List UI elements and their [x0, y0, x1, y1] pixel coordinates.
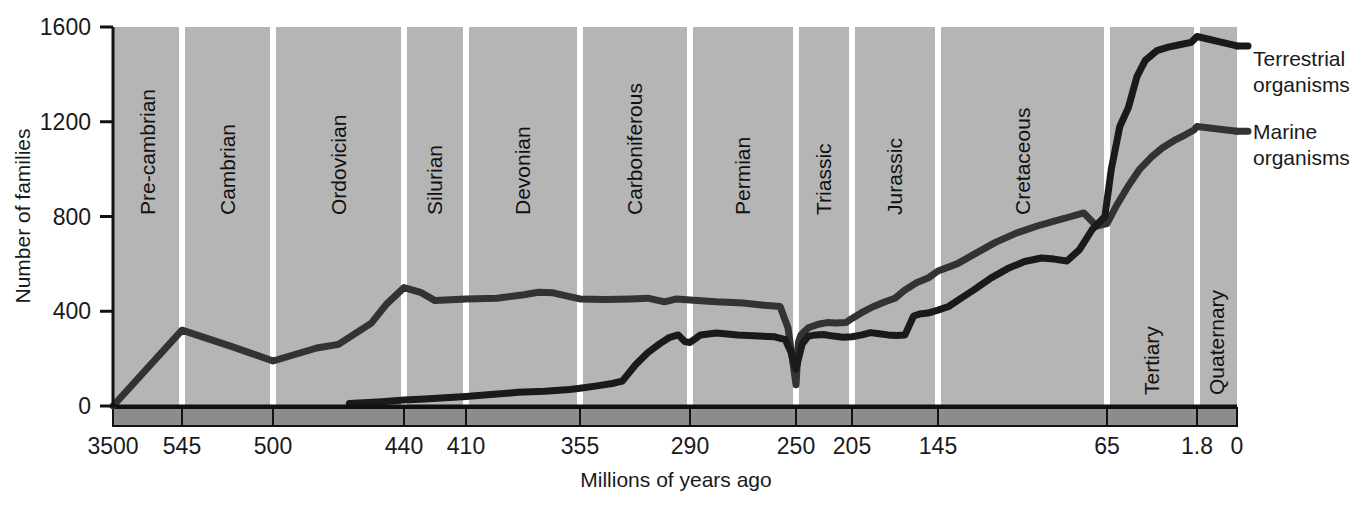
period-label: Quaternary: [1205, 289, 1228, 395]
diversity-line-chart: Pre-cambrianCambrianOrdovicianSilurianDe…: [0, 0, 1372, 510]
y-tick-label: 800: [53, 204, 91, 230]
period-band: [113, 408, 1237, 426]
period-label: Ordovician: [327, 115, 350, 215]
period-label: Jurassic: [883, 138, 906, 215]
y-tick-label: 0: [78, 393, 91, 419]
x-tick-label: 545: [163, 433, 201, 459]
period-label: Carboniferous: [623, 83, 646, 215]
x-tick-label: 65: [1094, 433, 1120, 459]
y-tick-label: 1200: [40, 109, 91, 135]
period-label: Silurian: [423, 145, 446, 215]
period-label: Permian: [731, 137, 754, 215]
period-band-strip: [113, 408, 1237, 426]
x-axis-title: Millions of years ago: [580, 468, 771, 491]
period-label: Triassic: [812, 143, 835, 215]
legend-marine-line1: Marine: [1253, 120, 1317, 143]
period-label: Cambrian: [216, 124, 239, 215]
x-tick-label: 290: [671, 433, 709, 459]
legend-marine-line2: organisms: [1253, 146, 1350, 169]
x-tick-label: 500: [254, 433, 292, 459]
x-tick-label: 145: [919, 433, 957, 459]
legend-terrestrial-line1: Terrestrial: [1253, 47, 1345, 70]
period-label: Cretaceous: [1011, 108, 1034, 215]
y-tick-label: 400: [53, 298, 91, 324]
period-label: Tertiary: [1140, 326, 1163, 395]
chart-figure: Pre-cambrianCambrianOrdovicianSilurianDe…: [0, 0, 1372, 510]
y-tick-label: 1600: [40, 14, 91, 40]
x-tick-label: 0: [1231, 433, 1244, 459]
x-tick-label: 3500: [87, 433, 138, 459]
x-tick-label: 250: [777, 433, 815, 459]
legend-terrestrial-line2: organisms: [1253, 73, 1350, 96]
x-tick-label: 410: [447, 433, 485, 459]
x-tick-label: 1.8: [1181, 433, 1213, 459]
x-tick-label: 355: [561, 433, 599, 459]
y-axis-title: Number of families: [11, 128, 34, 303]
period-label: Pre-cambrian: [136, 89, 159, 215]
period-label: Devonian: [511, 126, 534, 215]
x-tick-label: 440: [385, 433, 423, 459]
x-tick-label: 205: [833, 433, 871, 459]
